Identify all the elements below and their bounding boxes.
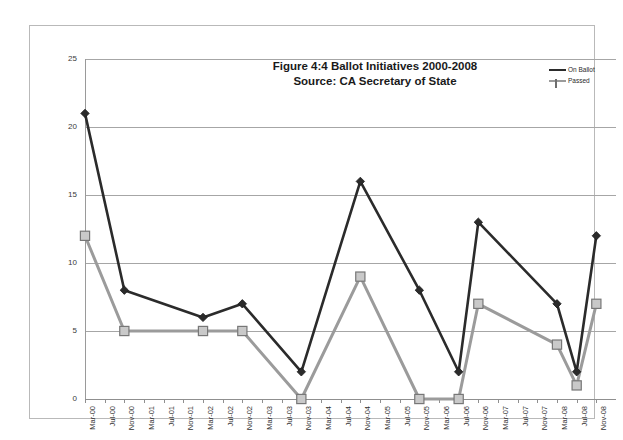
chart-screenshot: Figure 4:4 Ballot Initiatives 2000-2008 … <box>0 0 623 440</box>
y-tick-label-0: 0 <box>57 395 77 403</box>
data-point-on-ballot-mar-02[interactable] <box>199 313 207 321</box>
x-tick-label-nov-05: Nov-05 <box>422 406 431 430</box>
x-tick-mar-00 <box>85 399 86 403</box>
x-tick-label-mar-02: Mar-02 <box>206 406 215 430</box>
data-point-passed-nov-00[interactable] <box>120 326 129 335</box>
x-tick-jul-02 <box>223 399 224 403</box>
y-tick-label-5: 5 <box>57 327 77 335</box>
x-tick-mar-04 <box>321 399 322 403</box>
plot-area: 0510152025 Mar-00Jul-00Nov-00Mar-01Jul-0… <box>85 59 616 399</box>
x-tick-nov-06 <box>478 399 479 403</box>
data-point-passed-nov-02[interactable] <box>238 326 247 335</box>
x-tick-jul-01 <box>164 399 165 403</box>
x-tick-mar-01 <box>144 399 145 403</box>
data-point-passed-jul-06[interactable] <box>454 394 463 403</box>
x-tick-label-jul-08: Jul-08 <box>580 406 589 426</box>
series-line-on-ballot <box>85 113 596 371</box>
x-tick-nov-07 <box>537 399 538 403</box>
x-tick-nov-04 <box>360 399 361 403</box>
x-tick-label-nov-08: Nov-08 <box>599 406 608 430</box>
x-tick-label-mar-01: Mar-01 <box>147 406 156 430</box>
x-tick-label-nov-00: Nov-00 <box>127 406 136 430</box>
x-tick-mar-08 <box>557 399 558 403</box>
x-tick-label-nov-04: Nov-04 <box>363 406 372 430</box>
x-tick-label-mar-08: Mar-08 <box>560 406 569 430</box>
x-tick-label-nov-01: Nov-01 <box>186 406 195 430</box>
data-point-passed-mar-08[interactable] <box>552 340 561 349</box>
x-tick-label-nov-06: Nov-06 <box>481 406 490 430</box>
data-point-on-ballot-nov-00[interactable] <box>120 286 128 294</box>
x-tick-mar-07 <box>498 399 499 403</box>
x-tick-nov-02 <box>242 399 243 403</box>
data-point-on-ballot-nov-08[interactable] <box>592 232 600 240</box>
x-tick-label-nov-02: Nov-02 <box>245 406 254 430</box>
x-tick-label-mar-05: Mar-05 <box>383 406 392 430</box>
x-tick-label-jul-01: Jul-01 <box>167 406 176 426</box>
x-tick-jul-04 <box>341 399 342 403</box>
y-tick-label-20: 20 <box>57 123 77 131</box>
x-tick-nov-00 <box>124 399 125 403</box>
x-tick-label-mar-04: Mar-04 <box>324 406 333 430</box>
y-tick-label-25: 25 <box>57 55 77 63</box>
chart-frame: Figure 4:4 Ballot Initiatives 2000-2008 … <box>29 25 595 419</box>
x-tick-label-jul-07: Jul-07 <box>521 406 530 426</box>
data-point-passed-nov-05[interactable] <box>415 394 424 403</box>
x-tick-label-jul-04: Jul-04 <box>344 406 353 426</box>
y-tick-label-10: 10 <box>57 259 77 267</box>
x-tick-label-nov-03: Nov-03 <box>304 406 313 430</box>
data-point-passed-mar-00[interactable] <box>80 231 89 240</box>
x-tick-label-jul-00: Jul-00 <box>108 406 117 426</box>
data-point-passed-mar-02[interactable] <box>198 326 207 335</box>
data-point-passed-nov-08[interactable] <box>592 299 601 308</box>
x-tick-nov-08 <box>596 399 597 403</box>
x-tick-jul-00 <box>105 399 106 403</box>
x-tick-label-jul-03: Jul-03 <box>285 406 294 426</box>
x-tick-mar-03 <box>262 399 263 403</box>
data-point-passed-nov-06[interactable] <box>474 299 483 308</box>
x-tick-label-mar-03: Mar-03 <box>265 406 274 430</box>
data-point-on-ballot-mar-00[interactable] <box>81 109 89 117</box>
data-point-on-ballot-jul-06[interactable] <box>454 368 462 376</box>
x-tick-mar-02 <box>203 399 204 403</box>
x-tick-label-mar-07: Mar-07 <box>501 406 510 430</box>
x-tick-label-jul-05: Jul-05 <box>403 406 412 426</box>
data-point-passed-jul-08[interactable] <box>572 381 581 390</box>
x-tick-jul-05 <box>400 399 401 403</box>
x-tick-nov-01 <box>183 399 184 403</box>
x-tick-jul-08 <box>577 399 578 403</box>
data-point-passed-nov-03[interactable] <box>297 394 306 403</box>
x-tick-jul-07 <box>518 399 519 403</box>
x-tick-label-mar-06: Mar-06 <box>442 406 451 430</box>
data-point-passed-nov-04[interactable] <box>356 272 365 281</box>
series-line-passed <box>85 236 596 399</box>
x-tick-label-jul-06: Jul-06 <box>462 406 471 426</box>
x-tick-label-jul-02: Jul-02 <box>226 406 235 426</box>
series-lines <box>85 59 616 399</box>
y-tick-label-15: 15 <box>57 191 77 199</box>
x-tick-label-nov-07: Nov-07 <box>540 406 549 430</box>
x-tick-label-mar-00: Mar-00 <box>88 406 97 430</box>
x-tick-jul-03 <box>282 399 283 403</box>
x-tick-mar-05 <box>380 399 381 403</box>
